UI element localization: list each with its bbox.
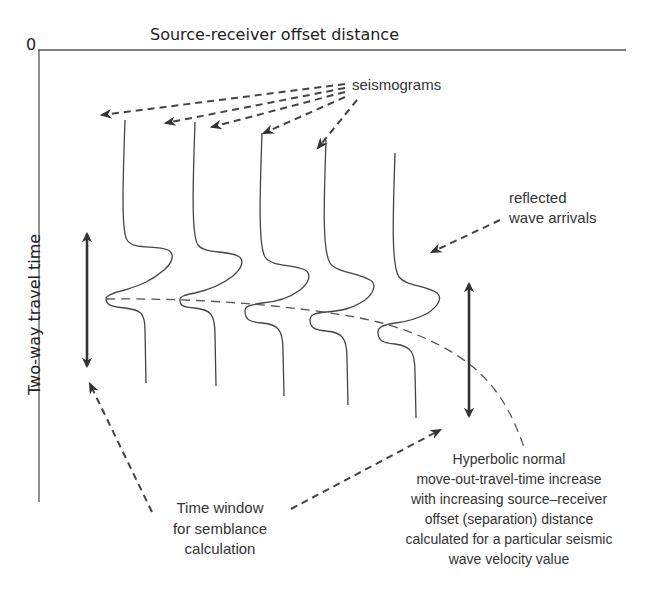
axes: 0 Source-receiver offset distance Two-wa… bbox=[25, 25, 626, 502]
label-time-window: Time window for semblance calculation bbox=[173, 499, 267, 557]
label-reflected-line-2: wave arrivals bbox=[508, 209, 597, 226]
hyperbolic-moveout-curve bbox=[106, 299, 525, 450]
pointer-reflected-arrivals bbox=[432, 220, 500, 252]
label-time-window-line-1: Time window bbox=[177, 499, 264, 516]
label-hyperbolic-line-1: Hyperbolic normal bbox=[453, 451, 566, 467]
pointer-time-window-left bbox=[90, 384, 152, 512]
seismogram-pointers bbox=[102, 84, 357, 148]
label-hyperbolic-line-2: move-out-travel-time increase bbox=[416, 471, 601, 487]
x-axis-title: Source-receiver offset distance bbox=[150, 25, 399, 44]
seismic-semblance-diagram: 0 Source-receiver offset distance Two-wa… bbox=[0, 0, 656, 593]
seismogram-5 bbox=[378, 153, 440, 418]
pointer-seismogram-3 bbox=[212, 92, 345, 127]
seismogram-3 bbox=[245, 133, 309, 396]
label-seismograms: seismograms bbox=[352, 76, 441, 93]
origin-label: 0 bbox=[26, 35, 36, 54]
pointer-seismogram-2 bbox=[166, 88, 345, 123]
label-hyperbolic-line-4: offset (separation) distance bbox=[425, 511, 594, 527]
seismogram-2 bbox=[180, 122, 242, 386]
seismogram-1 bbox=[106, 120, 172, 383]
label-hyperbolic-moveout: Hyperbolic normal move-out-travel-time i… bbox=[406, 451, 613, 567]
y-axis-title: Two-way travel time bbox=[25, 234, 44, 396]
seismogram-traces bbox=[106, 120, 440, 418]
pointer-seismogram-5 bbox=[318, 100, 357, 148]
label-time-window-line-2: for semblance bbox=[173, 520, 267, 537]
label-hyperbolic-line-3: with increasing source–receiver bbox=[410, 491, 607, 507]
label-reflected-line-1: reflected bbox=[509, 189, 567, 206]
label-hyperbolic-line-5: calculated for a particular seismic bbox=[406, 531, 613, 547]
label-hyperbolic-line-6: wave velocity value bbox=[448, 551, 570, 567]
label-time-window-line-3: calculation bbox=[185, 540, 256, 557]
label-reflected-wave-arrivals: reflected wave arrivals bbox=[508, 189, 597, 226]
pointer-seismogram-1 bbox=[102, 84, 345, 115]
seismogram-4 bbox=[310, 140, 374, 405]
